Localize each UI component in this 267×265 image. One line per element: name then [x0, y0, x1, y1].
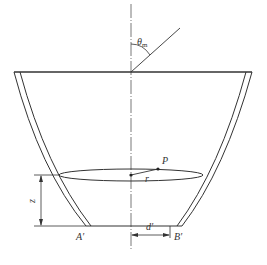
- point-p-dot: [156, 167, 159, 170]
- distance-label: d′: [146, 222, 153, 232]
- d-arrow-left: [131, 233, 138, 237]
- height-label: z: [27, 199, 37, 203]
- theta-line: [131, 28, 180, 72]
- z-arrow-top: [39, 175, 43, 182]
- base-left-label: A′: [76, 232, 84, 242]
- theta-label: θm: [137, 37, 147, 49]
- right-wall-inner: [177, 72, 246, 226]
- parabolic-vessel-diagram: θm P r z A′ B′ d′: [0, 0, 267, 265]
- diagram-drawing: [0, 0, 267, 265]
- base-right-label: B′: [174, 232, 182, 242]
- point-p-label: P: [162, 156, 168, 166]
- d-arrow-right: [163, 233, 170, 237]
- radius-label: r: [145, 174, 149, 184]
- z-arrow-bottom: [39, 219, 43, 226]
- center-dot: [129, 173, 132, 176]
